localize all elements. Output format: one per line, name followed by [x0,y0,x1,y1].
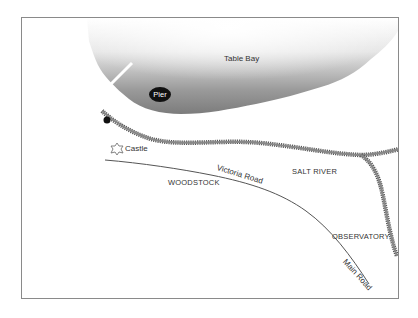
woodstock-label: WOODSTOCK [168,179,220,187]
victoria-main-road [105,160,369,284]
map-canvas [22,18,399,299]
castle-icon [111,143,123,155]
pier-badge: Pier [149,87,171,102]
salt-river-label: SALT RIVER [292,168,337,176]
table-bay-label: Table Bay [224,55,259,63]
castle-label: Castle [125,145,148,153]
pier-label: Pier [153,90,166,99]
observatory-label: OBSERVATORY [332,233,390,241]
map-frame: Table Bay Pier Castle WOODSTOCK SALT RIV… [21,17,399,299]
station-marker [104,117,111,124]
